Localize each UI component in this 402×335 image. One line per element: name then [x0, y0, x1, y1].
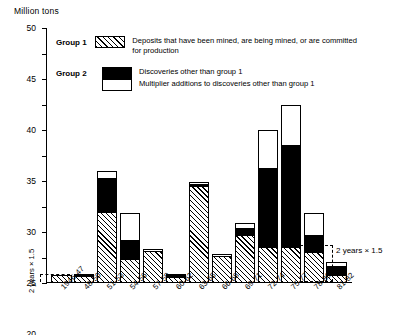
- legend-text-discoveries: Discoveries other than group 1: [139, 67, 242, 77]
- bar-segment-white: [120, 213, 140, 240]
- bar-segment-white: [304, 213, 324, 235]
- y-tick-label: 50: [27, 24, 36, 33]
- legend-row-group2: Group 2 Discoveries other than group 1 M…: [56, 67, 334, 91]
- bar-segment-black: [97, 178, 117, 211]
- y-axis-title: Million tons: [14, 6, 59, 16]
- bar-segment-black: [120, 240, 140, 259]
- y-tick-label: 30: [27, 228, 36, 237]
- legend-text-multiplier: Multiplier additions to discoveries othe…: [139, 79, 334, 89]
- bar-63-65: [189, 182, 209, 283]
- x-axis-tick-labels: 1946-4748-5051-5354-5657-5960-6263-6566-…: [46, 285, 352, 331]
- y-tick-label: 20: [27, 330, 36, 335]
- legend-swatch-white-icon: [102, 79, 132, 91]
- legend-swatch-hatched-icon: [95, 36, 125, 48]
- bar-72-74: [258, 130, 278, 283]
- legend-text-group1: Deposits that have been mined, are being…: [132, 36, 366, 57]
- left-annotation-label: 2 years × 1.5: [27, 249, 36, 293]
- bar-51-53: [97, 171, 117, 283]
- bar-segment-white: [258, 130, 278, 168]
- legend-swatch-black-icon: [102, 67, 132, 79]
- bar-54-56: [120, 213, 140, 283]
- y-tick-label: 40: [27, 126, 36, 135]
- bar-segment-white: [281, 105, 301, 146]
- legend-group1-label: Group 1: [56, 36, 95, 47]
- bar-75-77: [281, 105, 301, 283]
- y-tick: 0: [42, 283, 47, 284]
- bar-segment-black: [281, 145, 301, 247]
- bar-segment-black: [258, 168, 278, 247]
- bar-segment-white: [97, 171, 117, 179]
- chart-figure: Million tons 05101520253035404550 1946-4…: [0, 0, 402, 335]
- bar-segment-hatch: [189, 186, 209, 283]
- legend-group2-label: Group 2: [56, 67, 102, 78]
- legend-row-group1: Group 1 Deposits that have been mined, a…: [56, 36, 366, 57]
- bar-segment-black: [235, 228, 255, 235]
- y-tick-label: 45: [27, 75, 36, 84]
- right-annotation-label: 2 years × 1.5: [336, 246, 382, 255]
- right-annotation-bracket: [300, 245, 333, 282]
- y-tick-label: 35: [27, 177, 36, 186]
- left-annotation-bracket: [40, 274, 70, 282]
- bar-segment-hatch: [97, 212, 117, 283]
